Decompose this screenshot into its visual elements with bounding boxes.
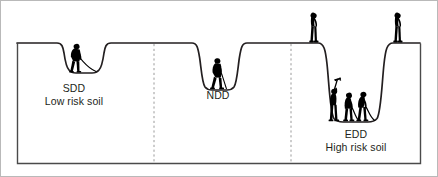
worker-figure-edd-shovel: [343, 92, 358, 121]
worker-figure-sdd: [69, 43, 96, 72]
label-sdd-risk: Low risk soil: [14, 95, 134, 108]
worker-figure-edd-edge-right: [393, 12, 402, 43]
worker-figure-edd-hose: [356, 91, 374, 121]
label-ndd: NDD: [178, 89, 258, 102]
label-sdd-code: SDD: [14, 82, 134, 95]
label-edd: EDD High risk soil: [296, 128, 416, 154]
worker-figure-edd-pickaxe: [329, 77, 342, 121]
section-dividers: [154, 44, 291, 163]
label-sdd: SDD Low risk soil: [14, 82, 134, 108]
label-edd-risk: High risk soil: [296, 141, 416, 154]
label-ndd-code: NDD: [178, 89, 258, 102]
label-edd-code: EDD: [296, 128, 416, 141]
worker-figure-edd-edge-left: [309, 12, 318, 43]
trench-depth-diagram: SDD Low risk soil NDD EDD High risk soil: [0, 0, 438, 177]
worker-figure-ndd: [210, 58, 226, 90]
